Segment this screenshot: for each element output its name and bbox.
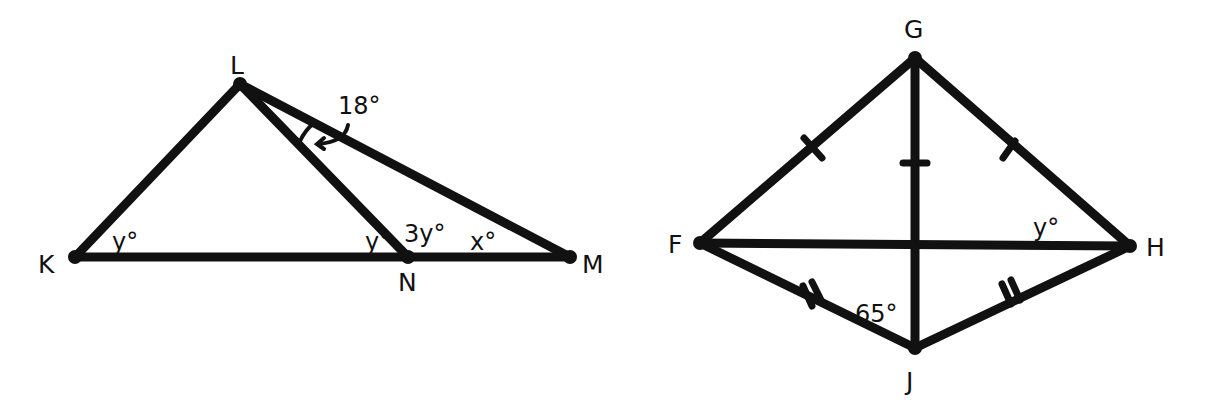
angle-label-k: y° bbox=[112, 228, 138, 256]
tick-mark-fj-1 bbox=[803, 286, 812, 306]
vertex-dot-k bbox=[68, 250, 82, 264]
vertex-dot-n bbox=[401, 250, 415, 264]
segment-gh bbox=[915, 58, 1130, 246]
segment-hj bbox=[915, 246, 1130, 348]
vertex-label-m: M bbox=[582, 250, 604, 279]
angle-label-lnk: y° bbox=[365, 228, 391, 256]
vertex-label-g: G bbox=[904, 15, 923, 44]
vertex-label-f: F bbox=[668, 230, 682, 259]
vertex-label-l: L bbox=[230, 51, 244, 80]
vertex-dot-g bbox=[908, 51, 922, 65]
figure-triangle-klm: K L N M y° y° 3y° x° 18° bbox=[38, 51, 604, 297]
vertex-label-n: N bbox=[398, 268, 417, 297]
segment-gf bbox=[700, 58, 915, 243]
segment-kl bbox=[75, 84, 240, 257]
tick-mark-gh bbox=[1003, 141, 1015, 158]
angle-arc-nlm bbox=[299, 123, 315, 143]
vertex-dot-j bbox=[908, 341, 922, 355]
vertex-dot-h bbox=[1123, 239, 1137, 253]
vertex-dot-m bbox=[563, 250, 577, 264]
tick-mark-hj-1 bbox=[1002, 284, 1011, 304]
vertex-label-j: J bbox=[904, 367, 913, 396]
angle-label-m: x° bbox=[470, 228, 496, 256]
segment-fh bbox=[700, 243, 1130, 246]
vertex-label-k: K bbox=[38, 250, 55, 279]
geometry-diagram: K L N M y° y° 3y° x° 18° G F H bbox=[0, 0, 1207, 413]
angle-label-nlm: 18° bbox=[338, 92, 381, 120]
figure-kite-fghj: G F H J y° 65° bbox=[668, 15, 1165, 396]
angle-label-ghf: y° bbox=[1033, 214, 1059, 242]
vertex-dot-f bbox=[693, 236, 707, 250]
angle-label-lnm: 3y° bbox=[404, 220, 445, 248]
angle-label-fjg: 65° bbox=[855, 300, 898, 328]
vertex-label-h: H bbox=[1146, 233, 1165, 262]
